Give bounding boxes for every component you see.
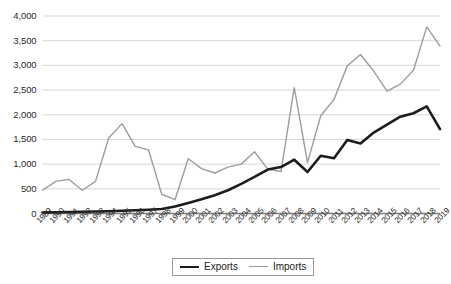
legend-swatch-exports-icon — [180, 266, 199, 268]
y-axis-tick-label: 1,000 — [0, 158, 37, 169]
data-series-group — [43, 27, 441, 213]
y-axis-tick-label: 1,500 — [0, 133, 37, 144]
series-line-imports — [43, 27, 441, 200]
y-axis-tick-label: 4,000 — [0, 10, 37, 21]
legend-swatch-imports-icon — [249, 266, 268, 267]
legend-item-imports[interactable]: Imports — [249, 261, 306, 272]
legend-label-imports: Imports — [273, 261, 306, 272]
y-axis-tick-label: 0 — [0, 208, 37, 219]
y-axis-tick-label: 2,000 — [0, 109, 37, 120]
gridlines — [43, 16, 441, 189]
y-axis-tick-label: 2,500 — [0, 84, 37, 95]
chart-legend: Exports Imports — [172, 258, 314, 276]
y-axis-tick-label: 3,000 — [0, 59, 37, 70]
legend-label-exports: Exports — [204, 261, 238, 272]
legend-item-exports[interactable]: Exports — [180, 261, 238, 272]
y-axis-tick-label: 3,500 — [0, 35, 37, 46]
y-axis-tick-label: 500 — [0, 183, 37, 194]
